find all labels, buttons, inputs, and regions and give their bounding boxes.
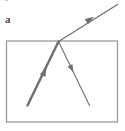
rectangle-boundary bbox=[7, 41, 118, 122]
reflected-ray-line bbox=[59, 42, 90, 106]
figure-panel: g a bbox=[0, 0, 125, 131]
ray-diagram-svg bbox=[0, 0, 125, 131]
reflected-ray-arrowhead bbox=[68, 64, 74, 72]
